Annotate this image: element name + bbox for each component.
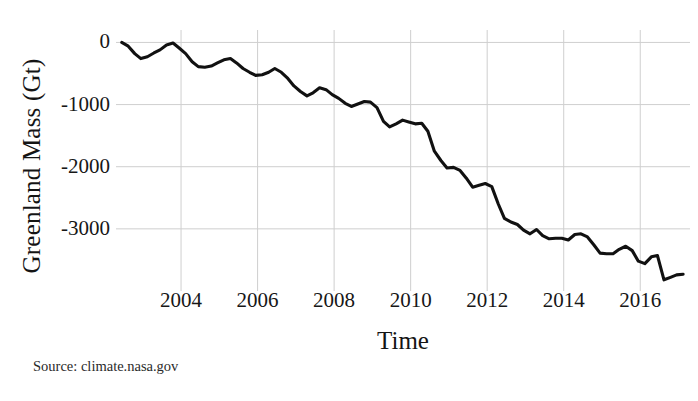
data-line-greenland-mass	[122, 42, 683, 279]
x-tick-label: 2014	[524, 288, 604, 313]
source-note: Source: climate.nasa.gov	[33, 358, 178, 375]
x-tick-label: 2006	[218, 288, 298, 313]
x-axis-title: Time	[116, 327, 690, 355]
x-tick-label: 2016	[600, 288, 680, 313]
x-tick-label: 2010	[371, 288, 451, 313]
horizontal-gridlines	[116, 42, 690, 228]
x-tick-label: 2004	[141, 288, 221, 313]
chart-figure: Greenland Mass (Gt) 0 -1000 -2000 -3000 …	[0, 0, 698, 401]
vertical-gridlines	[181, 30, 640, 291]
x-tick-label: 2008	[294, 288, 374, 313]
x-tick-label: 2012	[447, 288, 527, 313]
